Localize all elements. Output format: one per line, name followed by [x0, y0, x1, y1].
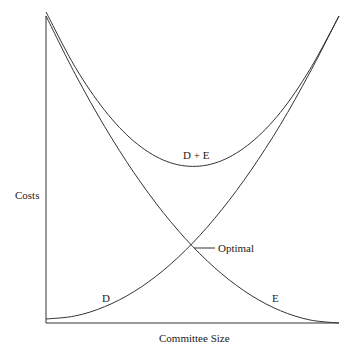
curve-d-plus-e [46, 12, 339, 166]
y-axis-label: Costs [15, 189, 39, 201]
cost-chart: Optimal D + E D E Costs Committee Size [0, 0, 351, 346]
sum-curve-label: D + E [183, 149, 210, 161]
d-curve-label: D [102, 292, 110, 304]
optimal-label: Optimal [218, 242, 254, 254]
curve-d [46, 16, 339, 319]
e-curve-label: E [272, 292, 279, 304]
curve-e [46, 16, 339, 323]
x-axis-label: Committee Size [159, 332, 230, 344]
